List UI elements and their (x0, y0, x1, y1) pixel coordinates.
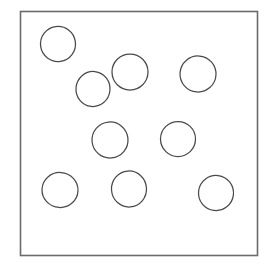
circle-6 (161, 122, 196, 157)
circle-2 (74, 70, 111, 108)
circle-group (38, 24, 235, 212)
square-boundary (21, 12, 258, 256)
circle-8 (110, 170, 147, 208)
circle-4 (179, 55, 217, 93)
circle-3 (112, 54, 148, 90)
circle-5 (90, 120, 129, 159)
circle-7 (41, 172, 79, 209)
circle-9 (196, 173, 235, 212)
drawing-canvas (0, 0, 268, 264)
circles-in-box-figure (0, 0, 268, 264)
circle-1 (38, 24, 78, 64)
